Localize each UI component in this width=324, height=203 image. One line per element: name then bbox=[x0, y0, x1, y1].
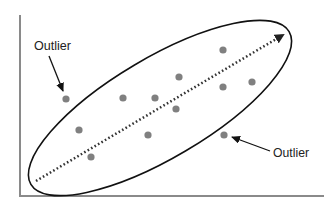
data-point bbox=[175, 73, 182, 80]
outlier-point-bottom-right bbox=[220, 131, 227, 138]
outlier-label-bottom-right: Outlier bbox=[273, 146, 309, 160]
data-point bbox=[75, 126, 82, 133]
cluster-ellipse bbox=[5, 0, 314, 203]
data-point bbox=[172, 105, 179, 112]
data-point bbox=[119, 94, 126, 101]
data-point bbox=[219, 83, 226, 90]
outlier-point-top-left bbox=[62, 95, 69, 102]
data-point bbox=[151, 94, 158, 101]
data-point bbox=[144, 131, 151, 138]
data-points bbox=[75, 46, 255, 160]
outlier-label-top-left: Outlier bbox=[34, 39, 71, 53]
outlier-arrow-bottom-right bbox=[232, 137, 270, 151]
data-point bbox=[219, 46, 226, 53]
data-point bbox=[248, 78, 255, 85]
data-point bbox=[87, 153, 94, 160]
outlier-arrow-top-left bbox=[49, 56, 63, 91]
scatter-diagram: Outlier Outlier bbox=[0, 0, 324, 203]
